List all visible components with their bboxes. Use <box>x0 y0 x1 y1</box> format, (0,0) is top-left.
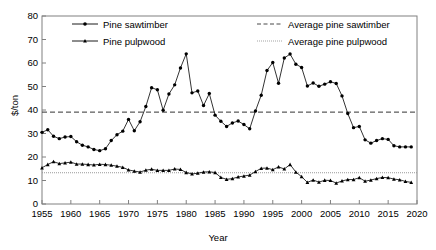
data-point <box>86 145 89 148</box>
data-point <box>127 168 131 172</box>
data-point <box>225 125 228 128</box>
legend-label-average-pine-sawtimber: Average pine sawtimber <box>288 19 390 30</box>
data-point <box>231 121 234 124</box>
data-point <box>58 137 61 140</box>
y-tick-label: 20 <box>12 152 38 162</box>
y-tick-label: 60 <box>12 58 38 68</box>
data-point <box>311 178 315 182</box>
data-point <box>69 135 72 138</box>
data-point <box>311 81 314 84</box>
data-point <box>121 129 124 132</box>
data-point <box>386 138 389 141</box>
y-tick-label: 70 <box>12 35 38 45</box>
data-point <box>363 138 366 141</box>
data-point <box>306 84 309 87</box>
data-point <box>265 69 268 72</box>
data-point <box>242 123 245 126</box>
series-line-pine-sawtimber <box>42 54 411 151</box>
data-point <box>375 139 378 142</box>
y-tick-label: 10 <box>12 176 38 186</box>
data-point <box>127 118 130 121</box>
data-point <box>138 120 141 123</box>
data-point <box>190 91 193 94</box>
data-point <box>254 170 258 174</box>
data-point <box>52 160 56 164</box>
data-point <box>202 104 205 107</box>
data-point <box>236 119 239 122</box>
data-point <box>352 126 355 129</box>
data-point <box>173 83 176 86</box>
y-tick-label: 40 <box>12 105 38 115</box>
legend-sample-pine-sawtimber-marker <box>83 22 87 26</box>
data-point <box>46 128 49 131</box>
data-point <box>317 85 320 88</box>
data-point <box>208 92 211 95</box>
data-point <box>115 133 118 136</box>
data-point <box>323 82 326 85</box>
data-point <box>248 127 251 130</box>
data-point <box>46 163 50 167</box>
data-point <box>150 86 153 89</box>
data-point <box>40 131 43 134</box>
data-point <box>277 82 280 85</box>
data-point <box>98 149 101 152</box>
data-point <box>52 135 55 138</box>
x-tick-label: 2020 <box>400 209 434 219</box>
data-point <box>300 66 303 69</box>
y-tick-label: 30 <box>12 129 38 139</box>
data-point <box>260 93 263 96</box>
chart-container: $/ton 01020304050607080 1955196019651970… <box>0 0 436 250</box>
data-point <box>381 137 384 140</box>
data-point <box>81 144 84 147</box>
data-point <box>156 88 159 91</box>
data-point <box>196 89 199 92</box>
data-point <box>92 148 95 151</box>
data-point <box>133 129 136 132</box>
data-point <box>329 80 332 83</box>
data-point <box>398 145 401 148</box>
data-point <box>271 61 274 64</box>
data-point <box>254 109 257 112</box>
data-point <box>185 52 188 55</box>
data-point <box>144 105 147 108</box>
data-point <box>179 66 182 69</box>
data-point <box>410 145 413 148</box>
data-point <box>104 147 107 150</box>
data-point <box>340 94 343 97</box>
y-tick-label: 80 <box>12 11 38 21</box>
data-point <box>40 166 44 170</box>
data-point <box>288 52 291 55</box>
data-point <box>358 125 361 128</box>
legend-label-pine-pulpwood: Pine pulpwood <box>103 36 165 47</box>
data-point <box>75 140 78 143</box>
x-axis-title: Year <box>0 232 436 243</box>
data-point <box>288 163 292 167</box>
data-point <box>63 135 66 138</box>
data-point <box>219 120 222 123</box>
data-point <box>357 176 361 180</box>
legend-label-pine-sawtimber: Pine sawtimber <box>103 19 168 30</box>
data-point <box>277 165 281 169</box>
data-point <box>346 112 349 115</box>
data-point <box>392 144 395 147</box>
data-point <box>167 92 170 95</box>
data-point <box>369 141 372 144</box>
data-point <box>283 56 286 59</box>
data-point <box>110 139 113 142</box>
data-point <box>161 109 164 112</box>
legend-label-average-pine-pulpwood: Average pine pulpwood <box>288 36 387 47</box>
y-tick-label: 50 <box>12 82 38 92</box>
data-point <box>213 113 216 116</box>
data-point <box>294 62 297 65</box>
data-point <box>335 82 338 85</box>
data-point <box>404 145 407 148</box>
x-axis-tick-labels: 1955196019651970197519801985199019952000… <box>0 209 436 225</box>
